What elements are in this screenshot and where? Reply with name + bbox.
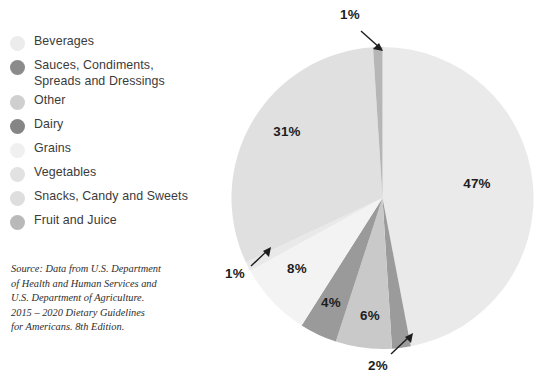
legend-item-snacks-candy-sweets[interactable]: Snacks, Candy and Sweets bbox=[10, 189, 220, 209]
legend-swatch-sauces-condiments bbox=[10, 60, 25, 75]
legend-swatch-fruit-and-juice bbox=[10, 215, 25, 230]
legend-item-other[interactable]: Other bbox=[10, 93, 220, 113]
slice-value-dairy: 4% bbox=[321, 295, 341, 310]
legend-label-fruit-and-juice: Fruit and Juice bbox=[34, 213, 117, 229]
legend-item-dairy[interactable]: Dairy bbox=[10, 117, 220, 137]
legend-item-grains[interactable]: Grains bbox=[10, 141, 220, 161]
legend-label-dairy: Dairy bbox=[34, 117, 63, 133]
slice-value-other: 6% bbox=[360, 308, 380, 323]
pie-slice-beverages[interactable] bbox=[383, 47, 534, 346]
legend-item-fruit-and-juice[interactable]: Fruit and Juice bbox=[10, 213, 220, 233]
legend-label-grains: Grains bbox=[34, 141, 71, 157]
callout-value-fruit-and-juice: 1% bbox=[340, 7, 360, 22]
source-note: Source: Data from U.S. Department of Hea… bbox=[11, 262, 211, 335]
pie-chart: 47% 31% 8% 6% 4% 1% 1% 2% bbox=[222, 0, 543, 376]
legend-label-sauces-condiments: Sauces, Condiments, Spreads and Dressing… bbox=[34, 58, 165, 89]
callout-value-vegetables: 1% bbox=[225, 266, 245, 281]
callout-value-sauces-condiments: 2% bbox=[368, 358, 388, 373]
pie-chart-svg: 47% 31% 8% 6% 4% 1% 1% 2% bbox=[222, 0, 543, 376]
legend-label-beverages: Beverages bbox=[34, 34, 94, 50]
legend-label-vegetables: Vegetables bbox=[34, 165, 96, 181]
legend-item-vegetables[interactable]: Vegetables bbox=[10, 165, 220, 185]
callout-fruit-and-juice: 1% bbox=[340, 7, 383, 51]
legend-swatch-grains bbox=[10, 143, 25, 158]
pie-slices bbox=[232, 47, 534, 349]
chart-page: Beverages Sauces, Condiments, Spreads an… bbox=[0, 0, 543, 376]
legend-swatch-dairy bbox=[10, 119, 25, 134]
legend-swatch-vegetables bbox=[10, 167, 25, 182]
legend: Beverages Sauces, Condiments, Spreads an… bbox=[10, 34, 220, 237]
legend-item-beverages[interactable]: Beverages bbox=[10, 34, 220, 54]
slice-value-snacks-candy-sweets: 31% bbox=[273, 124, 300, 139]
legend-label-snacks-candy-sweets: Snacks, Candy and Sweets bbox=[34, 189, 188, 205]
slice-value-beverages: 47% bbox=[463, 176, 490, 191]
legend-label-other: Other bbox=[34, 93, 66, 109]
legend-swatch-other bbox=[10, 95, 25, 110]
slice-value-grains: 8% bbox=[287, 261, 307, 276]
legend-swatch-beverages bbox=[10, 36, 25, 51]
legend-swatch-snacks-candy-sweets bbox=[10, 191, 25, 206]
legend-item-sauces-condiments[interactable]: Sauces, Condiments, Spreads and Dressing… bbox=[10, 58, 220, 89]
